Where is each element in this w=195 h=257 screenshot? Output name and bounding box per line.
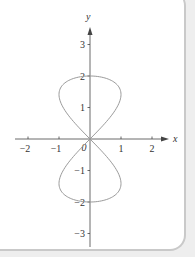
y-tick-label: 3 [80,39,85,50]
y-axis-arrow-icon [88,27,93,35]
x-axis-label: x [172,133,178,144]
y-tick-label: −3 [74,228,85,239]
y-tick-label: 1 [80,102,85,113]
x-tick-label: −1 [51,143,62,154]
x-tick-label: 2 [150,143,155,154]
y-axis-label: y [85,11,91,22]
chart-plot: −2−1120−3−2−1123 x y [0,0,195,257]
x-tick-label: −2 [20,143,31,154]
y-tick-label: −1 [74,165,85,176]
x-tick-label: 1 [119,143,124,154]
x-axis-arrow-icon [161,137,169,142]
